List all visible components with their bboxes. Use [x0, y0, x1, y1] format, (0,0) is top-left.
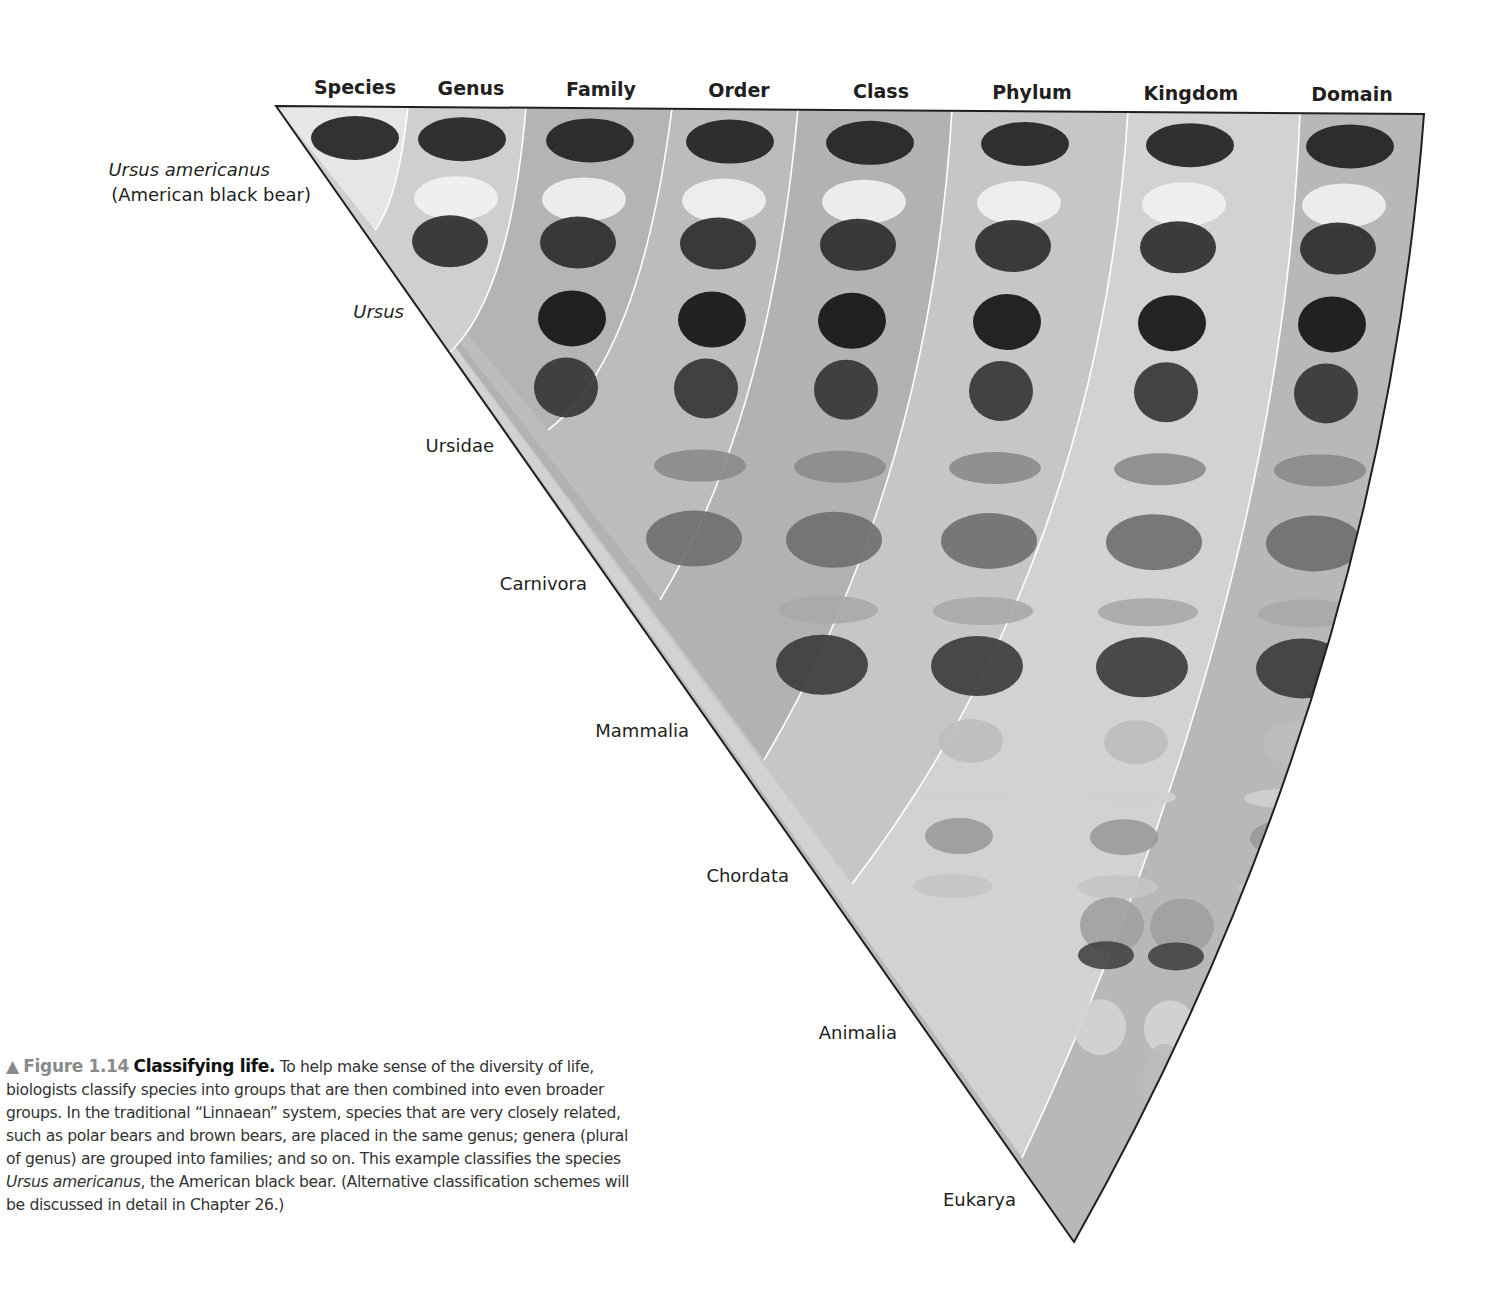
header-genus: Genus — [438, 77, 505, 99]
organism-dolphin-icon — [933, 597, 1033, 625]
organism-leopard-icon — [794, 451, 886, 483]
organism-brown-bear-icon — [975, 220, 1051, 272]
organism-dolphin-icon — [1098, 598, 1198, 626]
organism-spectacled-bear-icon — [674, 359, 738, 419]
organism-giant-panda-icon — [678, 292, 746, 348]
organism-turtle-icon — [925, 818, 993, 854]
organism-zebra-icon — [776, 635, 868, 695]
organism-brown-bear-icon — [1140, 221, 1216, 273]
label-class: Mammalia — [595, 720, 689, 741]
caption-marker-icon: ▲ — [6, 1056, 19, 1076]
organism-giant-panda-icon — [538, 290, 606, 346]
organism-polar-bear-icon — [1302, 183, 1386, 227]
organism-brown-bear-icon — [820, 219, 896, 271]
organism-polar-bear-icon — [414, 176, 498, 220]
header-phylum: Phylum — [992, 81, 1072, 103]
organism-american-black-bear-icon — [1306, 124, 1394, 168]
organism-gull-icon — [1084, 787, 1176, 807]
caption-species-name: Ursus americanus — [6, 1173, 140, 1191]
column-headers: Species Genus Family Order Class Phylum … — [314, 76, 1393, 105]
header-order: Order — [708, 79, 770, 101]
organism-leopard-icon — [949, 452, 1041, 484]
organism-brown-bear-icon — [412, 215, 488, 267]
organism-gull-icon — [919, 786, 1011, 806]
label-order: Carnivora — [500, 573, 587, 594]
organism-gray-wolf-icon — [786, 512, 882, 568]
organism-brown-bear-icon — [1300, 222, 1376, 274]
organism-sponge-icon — [1074, 999, 1126, 1055]
organism-gray-wolf-icon — [646, 511, 742, 567]
organism-spectacled-bear-icon — [814, 360, 878, 420]
organism-fish-icon — [913, 874, 993, 898]
caption-title: Classifying life. — [134, 1056, 275, 1076]
organism-spectacled-bear-icon — [534, 357, 598, 417]
organism-butterfly-icon — [1148, 942, 1204, 970]
header-domain: Domain — [1311, 83, 1392, 105]
organism-gray-wolf-icon — [1106, 514, 1202, 570]
organism-giant-panda-icon — [1138, 295, 1206, 351]
organism-spectacled-bear-icon — [1294, 363, 1358, 423]
organism-american-black-bear-icon — [826, 121, 914, 165]
organism-gray-wolf-icon — [941, 513, 1037, 569]
organism-protist-icon — [1136, 1178, 1168, 1218]
organism-polar-bear-icon — [1142, 182, 1226, 226]
organism-giant-panda-icon — [818, 293, 886, 349]
label-species-common: (American black bear) — [111, 184, 311, 205]
organism-frog-icon — [939, 719, 1003, 763]
organism-butterfly-icon — [1078, 941, 1134, 969]
organism-polar-bear-icon — [977, 181, 1061, 225]
header-family: Family — [566, 78, 637, 100]
organism-polar-bear-icon — [822, 180, 906, 224]
label-kingdom: Animalia — [819, 1022, 897, 1043]
header-species: Species — [314, 76, 396, 98]
caption-figure-number: Figure 1.14 — [23, 1056, 129, 1076]
organism-zebra-icon — [931, 636, 1023, 696]
organism-american-black-bear-icon — [981, 122, 1069, 166]
organism-zebra-icon — [1096, 637, 1188, 697]
organism-fish-icon — [1078, 875, 1158, 899]
organism-spectacled-bear-icon — [969, 361, 1033, 421]
header-kingdom: Kingdom — [1144, 82, 1239, 104]
organism-dolphin-icon — [1258, 599, 1358, 627]
organism-american-black-bear-icon — [418, 117, 506, 161]
organism-fish-icon — [1238, 876, 1318, 900]
header-class: Class — [853, 80, 909, 102]
organism-spectacled-bear-icon — [1134, 362, 1198, 422]
label-phylum: Chordata — [706, 865, 789, 886]
organism-brown-bear-icon — [540, 216, 616, 268]
label-family: Ursidae — [426, 435, 494, 456]
organism-giant-panda-icon — [973, 294, 1041, 350]
organism-american-black-bear-icon — [686, 120, 774, 164]
organism-american-black-bear-icon — [546, 118, 634, 162]
label-genus: Ursus — [353, 301, 404, 322]
label-domain: Eukarya — [943, 1189, 1016, 1210]
organism-polar-bear-icon — [542, 177, 626, 221]
label-species-name: Ursus americanus — [108, 159, 270, 180]
organism-giant-panda-icon — [1298, 296, 1366, 352]
organism-polar-bear-icon — [682, 179, 766, 223]
organism-leopard-icon — [654, 450, 746, 482]
organism-brown-bear-icon — [680, 218, 756, 270]
organism-gray-wolf-icon — [1266, 515, 1362, 571]
organism-american-black-bear-icon — [311, 116, 399, 160]
organism-zebra-icon — [1256, 638, 1348, 698]
organism-dolphin-icon — [778, 596, 878, 624]
organism-gull-icon — [1244, 788, 1336, 808]
organism-turtle-icon — [1090, 819, 1158, 855]
organism-mushroom-icon — [1136, 1112, 1180, 1144]
figure-caption: ▲ Figure 1.14 Classifying life. To help … — [6, 1055, 646, 1217]
organism-leopard-icon — [1114, 453, 1206, 485]
organism-frog-icon — [1104, 720, 1168, 764]
organism-daffodil-icon — [1142, 1043, 1186, 1123]
organism-american-black-bear-icon — [1146, 123, 1234, 167]
organism-leopard-icon — [1274, 454, 1366, 486]
organism-turtle-icon — [1250, 820, 1318, 856]
